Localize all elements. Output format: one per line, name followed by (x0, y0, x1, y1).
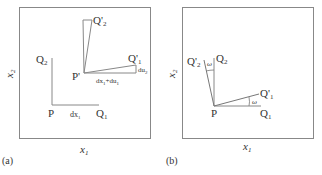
x1-axis-label: x1 (79, 143, 88, 157)
deformed-line-q1 (84, 65, 136, 73)
x2-axis-label: x2 (165, 69, 179, 79)
label-q2-prime: Q'2 (187, 55, 201, 69)
label-q2: Q2 (216, 52, 228, 66)
label-q1: Q1 (260, 107, 272, 121)
label-p: P (211, 107, 217, 119)
label-p-prime: P' (72, 70, 80, 82)
label-q1-prime: Q'1 (128, 52, 142, 66)
label-dx1: dx1 (70, 110, 81, 120)
caption-a: (a) (2, 155, 13, 167)
x2-axis-label: x2 (3, 69, 17, 79)
x1-axis-label: x1 (242, 140, 251, 154)
label-q1-prime: Q'1 (260, 87, 274, 101)
label-q2-prime: Q'2 (93, 14, 107, 28)
label-du2: du2 (138, 66, 148, 75)
panel-b-frame (183, 8, 314, 139)
label-omega-top: ω (207, 60, 212, 68)
angle-arc-right (249, 97, 250, 106)
angle-arc-top (206, 70, 214, 71)
deformed-line-q2 (83, 20, 92, 73)
label-p: P (48, 107, 54, 119)
panel-b: Q'2 ω Q2 Q'1 ω P Q1 x1 x2 (b) (165, 8, 314, 168)
deformation-diagram: Q2 P dx1 Q1 P' Q'2 Q'1 dx1+du1 du2 x1 x2… (0, 0, 322, 175)
panel-a: Q2 P dx1 Q1 P' Q'2 Q'1 dx1+du1 du2 x1 x2… (2, 8, 151, 168)
label-q1: Q1 (96, 107, 108, 121)
label-q2: Q2 (36, 53, 48, 67)
caption-b: (b) (166, 155, 178, 167)
label-omega-right: ω (252, 98, 257, 106)
label-dx1-plus-du1: dx1+du1 (96, 77, 119, 86)
